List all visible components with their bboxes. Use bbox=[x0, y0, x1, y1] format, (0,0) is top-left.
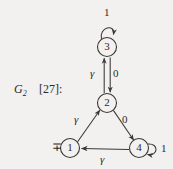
edge-label-3-3: 1 bbox=[104, 7, 110, 18]
graph-name-subscript: 2 bbox=[23, 89, 27, 98]
edge-label-3-2: 0 bbox=[113, 68, 119, 79]
node-2-label: 2 bbox=[100, 97, 114, 108]
node-1-label: 1 bbox=[63, 142, 77, 153]
initial-state-marker: ∓ bbox=[52, 141, 62, 153]
graph-name-label: G2 bbox=[14, 83, 27, 98]
edge-4-to-1-gamma bbox=[82, 148, 129, 149]
edge-label-4-1: γ bbox=[100, 154, 104, 165]
graph-figure: G2 [27]: ∓ 3 2 1 4 1 γ 0 γ 0 γ 1 bbox=[0, 0, 173, 169]
edge-label-2-4: 0 bbox=[122, 114, 128, 125]
node-3-label: 3 bbox=[100, 41, 114, 52]
node-4-label: 4 bbox=[132, 142, 146, 153]
graph-name-base: G bbox=[14, 82, 23, 96]
edge-1-to-2-gamma bbox=[78, 110, 100, 142]
citation-label: [27]: bbox=[39, 83, 62, 95]
edge-label-2-3: γ bbox=[90, 68, 94, 79]
edge-label-4-4: 1 bbox=[161, 143, 167, 154]
edge-label-1-2: γ bbox=[74, 114, 78, 125]
